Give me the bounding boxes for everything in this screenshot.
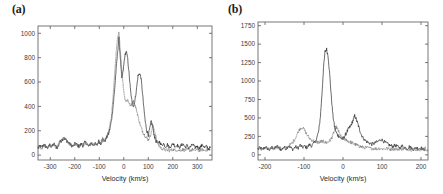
x-tick-label: -200 [68,163,81,170]
x-tick-label: 0 [122,163,126,170]
spectrum-dashed-trace [38,32,211,152]
x-tick-label: 200 [167,163,178,170]
y-tick-label: 250 [244,133,255,140]
x-tick-label: 200 [416,163,427,170]
spectrum-solid-trace [258,48,425,151]
y-tick-label: 0 [251,151,255,158]
plot-frame [258,22,428,160]
x-tick-label: -100 [93,163,106,170]
x-tick-label: 0 [341,163,345,170]
panel-b: (b) -200-1000100200025050075010001250150… [222,0,443,194]
y-tick-label: 1000 [21,30,36,37]
x-tick-label: 300 [192,163,203,170]
panel-b-plot: -200-10001002000250500750100012501500175… [222,0,443,194]
panel-a: (a) -300-200-100010020030002004006008001… [0,0,222,194]
x-tick-label: 100 [377,163,388,170]
x-tick-label: -100 [298,163,311,170]
spectrum-dashed-trace [258,126,428,152]
y-tick-label: 0 [31,151,35,158]
x-tick-label: -300 [44,163,57,170]
y-tick-label: 600 [24,78,35,85]
y-tick-label: 1000 [241,77,256,84]
x-tick-label: 100 [143,163,154,170]
y-tick-label: 750 [244,96,255,103]
y-tick-label: 400 [24,103,35,110]
spectrum-solid-trace [38,37,211,150]
y-tick-label: 1500 [241,40,256,47]
y-tick-label: 1250 [241,59,256,66]
y-tick-label: 800 [24,54,35,61]
x-axis-title: Velocity (km/s) [320,174,367,183]
figure-container: (a) -300-200-100010020030002004006008001… [0,0,443,194]
x-axis-title: Velocity (km/s) [102,174,149,183]
y-tick-label: 200 [24,127,35,134]
y-tick-label: 500 [244,114,255,121]
y-tick-label: 1750 [241,22,256,29]
panel-a-plot: -300-200-100010020030002004006008001000V… [0,0,222,194]
x-tick-label: -200 [259,163,272,170]
